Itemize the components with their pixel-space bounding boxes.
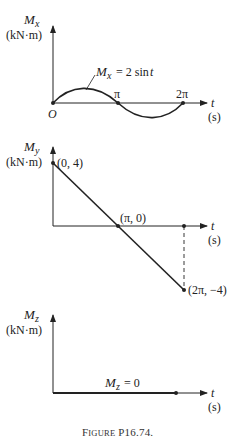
- mz-yunit: (kN·m): [6, 323, 42, 337]
- svg-text:= 0: = 0: [121, 376, 140, 390]
- mx-tick-2pi: 2π: [176, 87, 188, 101]
- svg-text:x: x: [106, 70, 112, 81]
- chart-mz: M z (kN·m) t (s) M z = 0: [6, 307, 221, 414]
- mx-point-origin: [51, 101, 55, 105]
- figure-caption: FIGURE P16.74.: [82, 426, 153, 438]
- mx-origin-label: O: [48, 107, 57, 121]
- mx-xunit: (s): [208, 110, 221, 124]
- mx-point-pi: [116, 101, 120, 105]
- mx-point-2pi: [181, 101, 185, 105]
- mx-equation: M x = 2 sin t: [95, 64, 154, 81]
- mx-tick-pi: π: [114, 87, 120, 101]
- my-label-start: (0, 4): [57, 156, 83, 170]
- my-point-start: [51, 161, 55, 165]
- my-label-mid: (π, 0): [120, 211, 146, 225]
- my-point-2pi-axis: [182, 224, 186, 228]
- mx-y-axis-label: M x (kN·m): [6, 12, 42, 42]
- chart-my: M y (kN·m) t (s) (0, 4) (π, 0) (2π, −4): [6, 139, 227, 297]
- svg-text:t: t: [150, 65, 154, 79]
- mz-equation: M z = 0: [104, 375, 140, 392]
- my-point-end: [182, 288, 186, 292]
- figure-canvas: M x (kN·m) t (s) O π 2π M x = 2 sin t M …: [0, 0, 242, 446]
- mx-xlabel: t: [211, 96, 215, 110]
- mz-y-axis-label: M z (kN·m): [6, 307, 42, 337]
- mz-point-end: [174, 391, 178, 395]
- mx-leader-line: [86, 75, 95, 90]
- svg-text:z: z: [115, 381, 120, 392]
- my-yunit: (kN·m): [6, 155, 42, 169]
- my-xlabel: t: [211, 219, 215, 233]
- my-xunit: (s): [208, 233, 221, 247]
- mz-xlabel: t: [211, 386, 215, 400]
- my-y-axis-label: M y (kN·m): [6, 139, 42, 169]
- my-label-end: (2π, −4): [188, 283, 227, 297]
- chart-mx: M x (kN·m) t (s) O π 2π M x = 2 sin t: [6, 12, 221, 124]
- mx-yunit: (kN·m): [6, 28, 42, 42]
- svg-text:= 2 sin: = 2 sin: [113, 65, 152, 79]
- mz-xunit: (s): [208, 400, 221, 414]
